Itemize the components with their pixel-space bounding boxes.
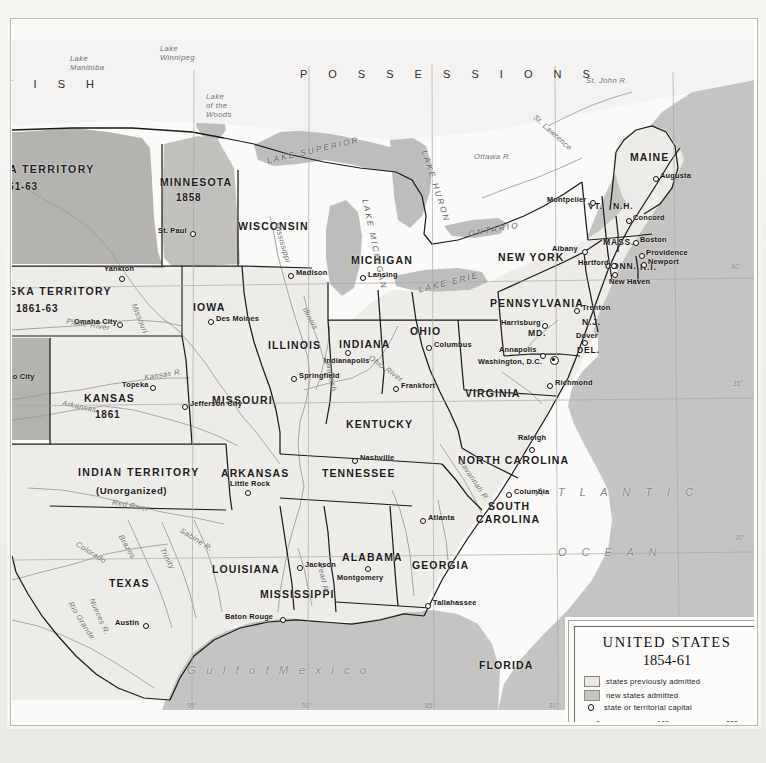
label-dakota-territory: TA TERRITORY <box>12 163 95 175</box>
city-label-columbia: Columbia <box>514 487 549 496</box>
city-label-jefferson-city: Jefferson City <box>190 399 242 408</box>
city-label-concord: Concord <box>633 213 665 222</box>
city-label-columbus: Columbus <box>434 340 472 349</box>
label-state-minnesota: MINNESOTA <box>160 176 232 188</box>
city-label-annapolis: Annapolis <box>499 345 537 354</box>
label-state-florida: FLORIDA <box>479 659 533 671</box>
label-state-south-carolina-line2: CAROLINA <box>476 513 540 525</box>
label-st-john-river: St. John R. <box>586 76 628 85</box>
graticule-label-lon-90: 90° <box>302 702 312 709</box>
city-label-tallahassee: Tallahassee <box>433 598 477 607</box>
graticule-label-lat-30: 30° <box>735 534 745 541</box>
label-state-texas: TEXAS <box>109 577 150 589</box>
legend-years: 1854-61 <box>584 652 750 669</box>
graticule-label-lat-35: 35° <box>733 380 743 387</box>
label-state-kansas: KANSAS <box>84 392 135 404</box>
scale-label-start: 0 <box>596 720 600 722</box>
city-label-little-rock: Little Rock <box>230 479 270 488</box>
label-state-new-jersey: N.J. <box>582 317 601 327</box>
legend-row-previously-admitted: states previously admitted <box>584 676 750 687</box>
graticule-label-lon-95: 95° <box>187 702 197 709</box>
legend-row-capital: state or territorial capital <box>584 703 750 712</box>
map-page: T I S H P O S S E S S I O N S A T L A N … <box>0 0 766 763</box>
city-label-providence: Providence <box>646 248 688 257</box>
city-label-washington-dc: Washington, D.C. <box>478 357 542 366</box>
label-state-pennsylvania: PENNSYLVANIA <box>490 297 584 309</box>
city-label-harrisburg: Harrisburg <box>501 318 541 327</box>
label-lake-manitoba: Lake Manitoba <box>70 54 104 72</box>
label-dakota-territory-year: 861-63 <box>12 181 38 192</box>
label-possessions: P O S S E S S I O N S <box>300 68 599 80</box>
label-state-illinois: ILLINOIS <box>268 339 321 351</box>
label-state-kansas-year: 1861 <box>95 409 120 420</box>
city-label-albany: Albany <box>552 244 578 253</box>
city-label-springfield: Springfield <box>299 371 340 380</box>
label-state-maryland: MD. <box>528 328 546 338</box>
city-label-madison: Madison <box>296 268 327 277</box>
city-label-des-moines: Des Moines <box>216 314 259 323</box>
legend-scale-bar: 0 100 200 <box>584 720 750 722</box>
label-indian-territory: INDIAN TERRITORY <box>78 466 200 478</box>
label-state-louisiana: LOUISIANA <box>212 563 280 575</box>
label-state-arkansas: ARKANSAS <box>221 467 289 479</box>
label-ottawa-river: Ottawa R. <box>474 152 511 161</box>
label-atlantic-ocean-line1: A T L A N T I C <box>536 486 699 498</box>
label-lake-of-the-woods: Lake of the Woods <box>206 92 232 119</box>
city-label-montpelier: Montpelier <box>547 195 586 204</box>
label-indian-territory-status: (Unorganized) <box>96 485 167 496</box>
label-state-connecticut: CONN. <box>605 261 637 271</box>
label-state-minnesota-year: 1858 <box>176 192 201 203</box>
city-label-jackson: Jackson <box>305 560 336 569</box>
city-label-atlanta: Atlanta <box>428 513 454 522</box>
city-label-dover: Dover <box>576 331 598 340</box>
label-state-new-hampshire: N.H. <box>613 201 633 211</box>
graticule-label-lat-40: 40° <box>731 263 741 270</box>
legend-swatch-previously-admitted <box>584 676 600 687</box>
city-label-frankfort: Frankfort <box>401 381 435 390</box>
city-label-lansing: Lansing <box>368 270 398 279</box>
label-gulf-of-mexico: G u l f o f M e x i c o <box>187 664 370 676</box>
legend-row-new-states: new states admitted <box>584 690 750 701</box>
scale-label-mid: 100 <box>657 720 669 722</box>
map-legend: UNITED STATES 1854-61 states previously … <box>568 620 754 722</box>
scale-label-end: 200 <box>726 720 738 722</box>
city-label-indianapolis: Indianapolis <box>324 356 370 365</box>
label-atlantic-ocean-line2: O C E A N <box>558 546 663 558</box>
city-label-newport: Newport <box>648 257 679 266</box>
label-state-kentucky: KENTUCKY <box>346 418 413 430</box>
label-state-virginia: VIRGINIA <box>465 387 520 399</box>
map-canvas: T I S H P O S S E S S I O N S A T L A N … <box>12 20 754 722</box>
legend-capital-ring-icon <box>584 704 598 711</box>
graticule-label-lon-80: 80° <box>549 702 559 709</box>
label-lake-winnipeg: Lake Winnipeg <box>160 44 195 62</box>
city-label-denver-city-partial: do City <box>12 372 34 381</box>
legend-swatch-new-states <box>584 690 600 701</box>
city-label-trenton: Trenton <box>582 303 611 312</box>
city-label-hartford: Hartford <box>578 258 609 267</box>
city-label-new-haven: New Haven <box>609 277 650 286</box>
city-label-omaha-city: Omaha City <box>74 317 117 326</box>
graticule-label-lon-85: 85° <box>425 702 435 709</box>
label-state-iowa: IOWA <box>193 301 225 313</box>
label-british-possessions-partial: T I S H <box>12 78 103 90</box>
legend-title: UNITED STATES <box>584 634 750 651</box>
label-state-indiana: INDIANA <box>339 338 390 350</box>
city-label-richmond: Richmond <box>555 378 593 387</box>
label-state-massachusetts: MASS. <box>603 237 634 247</box>
city-label-st-paul: St. Paul <box>158 226 187 235</box>
label-nebraska-territory-year: 1861-63 <box>16 303 58 314</box>
capital-dot-washington-dc[interactable] <box>550 356 559 365</box>
label-nebraska-territory: ASKA TERRITORY <box>12 285 112 297</box>
legend-label-new-states: new states admitted <box>606 691 678 700</box>
city-label-nashville: Nashville <box>360 453 394 462</box>
city-label-montgomery: Montgomery <box>337 573 383 582</box>
label-state-south-carolina-line1: SOUTH <box>488 500 530 512</box>
label-state-tennessee: TENNESSEE <box>322 467 396 479</box>
label-state-georgia: GEORGIA <box>412 559 469 571</box>
city-label-raleigh: Raleigh <box>518 433 546 442</box>
label-state-alabama: ALABAMA <box>342 551 403 563</box>
city-label-austin: Austin <box>115 618 139 627</box>
label-state-maine: MAINE <box>630 151 669 163</box>
label-state-delaware: DEL. <box>577 345 600 355</box>
legend-label-capital: state or territorial capital <box>604 703 692 712</box>
